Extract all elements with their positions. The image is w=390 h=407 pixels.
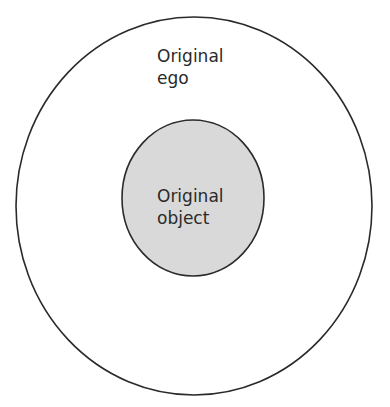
outer-label-line1: Original xyxy=(157,45,224,67)
outer-label-line2: ego xyxy=(157,67,224,89)
outer-label: Original ego xyxy=(157,45,224,89)
inner-label-line2: object xyxy=(157,207,224,229)
inner-label-line1: Original xyxy=(157,185,224,207)
inner-label: Original object xyxy=(157,185,224,229)
